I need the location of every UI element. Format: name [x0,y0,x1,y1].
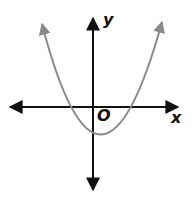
origin-label: O [97,108,111,124]
coordinate-plane [0,0,193,199]
x-axis-label: x [171,110,181,126]
y-axis-label: y [103,12,113,28]
